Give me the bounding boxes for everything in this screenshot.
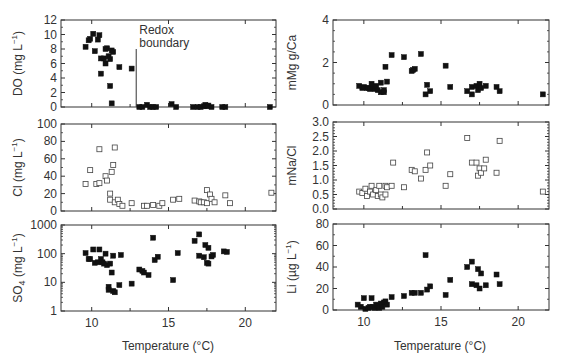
data-point bbox=[83, 251, 88, 256]
data-point bbox=[109, 169, 114, 174]
data-point bbox=[428, 163, 433, 168]
data-point bbox=[378, 80, 383, 85]
panel-li: 020406080101520Li (µg L−1) bbox=[284, 217, 549, 329]
y-tick-label: 0 bbox=[322, 98, 329, 112]
y-tick-label: 20 bbox=[44, 187, 58, 201]
data-point bbox=[483, 83, 488, 88]
data-point bbox=[97, 247, 102, 252]
y-tick-label: 0 bbox=[50, 204, 57, 218]
panel-nacl: 0.00.51.01.52.02.53.0mNa/Cl bbox=[285, 115, 549, 216]
data-point bbox=[105, 46, 110, 51]
data-point bbox=[88, 168, 93, 173]
data-point bbox=[418, 176, 423, 181]
y-tick-label: 0.0 bbox=[312, 202, 329, 216]
data-point bbox=[192, 238, 197, 243]
data-point bbox=[83, 182, 88, 187]
data-point bbox=[443, 63, 448, 68]
data-point bbox=[140, 105, 145, 110]
x-tick-label: 20 bbox=[511, 315, 525, 329]
y-tick-label: 4 bbox=[50, 71, 57, 85]
data-point bbox=[479, 271, 484, 276]
data-point bbox=[154, 105, 159, 110]
data-point bbox=[174, 105, 179, 110]
data-point bbox=[108, 57, 113, 62]
y-tick-label: 0.5 bbox=[312, 188, 329, 202]
data-point bbox=[129, 201, 134, 206]
data-point bbox=[171, 197, 176, 202]
panel-cl: 020406080100Cl (mg L−1) bbox=[10, 117, 276, 218]
y-tick-label: 1.0 bbox=[312, 173, 329, 187]
data-point bbox=[103, 61, 108, 66]
y-tick-label: 40 bbox=[44, 169, 58, 183]
data-point bbox=[479, 86, 484, 91]
data-point bbox=[494, 272, 499, 277]
data-point bbox=[209, 105, 214, 110]
data-point bbox=[111, 49, 116, 54]
data-point bbox=[389, 53, 394, 58]
data-point bbox=[423, 92, 428, 97]
data-point bbox=[197, 232, 202, 237]
y-tick-label: 0 bbox=[50, 100, 57, 114]
data-point bbox=[92, 49, 97, 54]
plot-frame bbox=[333, 20, 549, 105]
data-point bbox=[91, 31, 96, 36]
data-point bbox=[151, 235, 156, 240]
data-point bbox=[540, 189, 545, 194]
plot-frame bbox=[61, 225, 276, 311]
data-point bbox=[401, 294, 406, 299]
panel-do: 024681012DO (mg L−1)Redoxboundary bbox=[10, 13, 276, 114]
data-point bbox=[381, 90, 386, 95]
y-tick-label: 60 bbox=[44, 152, 58, 166]
data-point bbox=[385, 302, 390, 307]
data-point bbox=[418, 290, 423, 295]
figure: 024681012DO (mg L−1)Redoxboundary0204060… bbox=[0, 0, 565, 360]
data-point bbox=[469, 84, 474, 89]
y-tick-label: 1.5 bbox=[312, 159, 329, 173]
plot-frame bbox=[61, 124, 276, 211]
data-point bbox=[267, 105, 272, 110]
y-axis-label-nacl: mNa/Cl bbox=[285, 145, 299, 185]
redox-boundary-label: boundary bbox=[139, 36, 189, 50]
data-point bbox=[474, 160, 479, 165]
y-tick-label: 2 bbox=[50, 86, 57, 100]
data-point bbox=[412, 169, 417, 174]
data-point bbox=[448, 277, 453, 282]
data-point bbox=[111, 253, 116, 258]
data-point bbox=[412, 290, 417, 295]
y-axis-label-cl: Cl (mg L−1) bbox=[10, 138, 25, 196]
y-tick-label: 1000 bbox=[30, 218, 57, 232]
data-point bbox=[97, 181, 102, 186]
data-point bbox=[145, 203, 150, 208]
data-point bbox=[443, 183, 448, 188]
data-point bbox=[120, 203, 125, 208]
data-point bbox=[108, 83, 113, 88]
data-point bbox=[169, 102, 174, 107]
x-axis-label-right: Temperature (°C) bbox=[394, 339, 486, 353]
data-point bbox=[494, 170, 499, 175]
data-point bbox=[88, 257, 93, 262]
data-point bbox=[469, 259, 474, 264]
data-point bbox=[112, 145, 117, 150]
data-point bbox=[106, 287, 111, 292]
data-point bbox=[98, 71, 103, 76]
data-point bbox=[212, 200, 217, 205]
data-point bbox=[160, 201, 165, 206]
y-tick-label: 2 bbox=[322, 56, 329, 70]
data-point bbox=[118, 252, 123, 257]
y-tick-label: 2.0 bbox=[312, 144, 329, 158]
y-tick-label: 10 bbox=[44, 28, 58, 42]
data-point bbox=[369, 296, 374, 301]
data-point bbox=[223, 193, 228, 198]
data-point bbox=[83, 44, 88, 49]
data-point bbox=[469, 282, 474, 287]
data-point bbox=[129, 66, 134, 71]
x-axis-label-left: Temperature (°C) bbox=[122, 339, 214, 353]
data-point bbox=[117, 283, 122, 288]
data-point bbox=[206, 245, 211, 250]
data-point bbox=[497, 282, 502, 287]
data-point bbox=[465, 89, 470, 94]
data-point bbox=[418, 52, 423, 57]
data-point bbox=[389, 295, 394, 300]
data-point bbox=[191, 105, 196, 110]
data-point bbox=[223, 105, 228, 110]
